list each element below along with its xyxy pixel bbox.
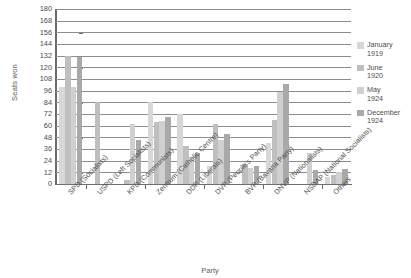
- legend-item[interactable]: June1920: [357, 64, 411, 82]
- legend-swatch-icon: [357, 42, 364, 49]
- legend-label-line2: 1919: [367, 50, 411, 59]
- x-category-label: Others: [331, 175, 353, 197]
- legend-swatch-icon: [357, 65, 364, 72]
- x-axis-category-labels: SPD (Socialists)USPD (Left Socialists)KP…: [0, 0, 411, 278]
- x-tick-mark: [322, 185, 323, 189]
- bar-chart: Seats won 180168156144132120108968472604…: [0, 0, 411, 278]
- legend-item[interactable]: December1924: [357, 109, 411, 127]
- x-tick-mark: [86, 185, 87, 189]
- legend-swatch-icon: [357, 87, 364, 94]
- x-tick-mark: [204, 185, 205, 189]
- x-tick-mark: [145, 185, 146, 189]
- x-category-label: DVP (People's Party): [213, 142, 268, 197]
- legend: January1919June1920May1924December1924: [357, 41, 411, 131]
- x-axis-title: Party: [150, 266, 270, 275]
- x-tick-mark: [263, 185, 264, 189]
- legend-label-line2: 1920: [367, 72, 411, 81]
- legend-label-line2: 1924: [367, 95, 411, 104]
- legend-label-line2: 1924: [367, 117, 411, 126]
- legend-item[interactable]: May1924: [357, 86, 411, 104]
- legend-swatch-icon: [357, 110, 364, 117]
- legend-item[interactable]: January1919: [357, 41, 411, 59]
